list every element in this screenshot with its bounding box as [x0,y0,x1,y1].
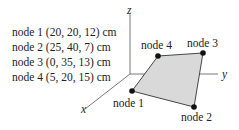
node-2-label: node 2 [181,111,212,123]
node-1-dot [129,88,135,94]
x-axis-label: x [80,103,87,115]
y-axis-label: y [221,68,228,81]
node-1-label: node 1 [113,97,144,109]
node-4-label: node 4 [141,39,172,51]
node-3-dot [200,50,206,56]
element-diagram: z y x node 1 node 2 node 3 node 4 [0,0,239,130]
node-2-dot [191,104,197,110]
node-3-label: node 3 [187,37,218,49]
z-axis-label: z [126,4,132,16]
node-4-dot [155,53,161,59]
